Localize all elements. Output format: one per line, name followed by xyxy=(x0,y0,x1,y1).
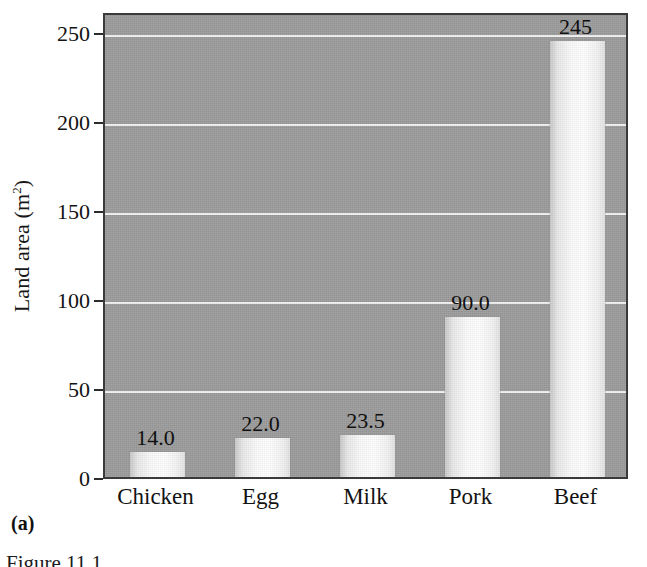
y-axis-title-text: Land area (m2) xyxy=(9,180,35,313)
plot-area xyxy=(103,13,628,479)
bar xyxy=(340,435,395,477)
gridline xyxy=(105,124,626,126)
y-axis-tick-label: 250 xyxy=(34,23,90,45)
y-axis-tick-label: 50 xyxy=(34,379,90,401)
bar xyxy=(235,438,290,477)
y-axis-tick-mark xyxy=(94,478,103,480)
gridline xyxy=(105,302,626,304)
gridline xyxy=(105,35,626,37)
y-axis-tick-label: 100 xyxy=(34,290,90,312)
bar xyxy=(445,317,500,477)
x-axis-tick-label: Beef xyxy=(554,484,597,509)
gridline xyxy=(105,391,626,393)
x-axis-tick-label: Chicken xyxy=(117,484,194,509)
bar xyxy=(550,41,605,477)
gridline xyxy=(105,213,626,215)
y-axis-tick-mark xyxy=(94,122,103,124)
y-axis-tick-label: 200 xyxy=(34,112,90,134)
y-axis-title-base: Land area (m xyxy=(9,194,34,312)
x-axis-tick-labels: ChickenEggMilkPorkBeef xyxy=(0,484,647,518)
y-axis-tick-labels: 050100150200250 xyxy=(34,0,90,567)
x-axis-tick-label: Milk xyxy=(343,484,388,509)
panel-letter: (a) xyxy=(11,512,34,535)
y-axis-title-superscript: 2 xyxy=(9,187,24,194)
x-axis-tick-label: Pork xyxy=(449,484,492,509)
y-axis-tick-mark xyxy=(94,300,103,302)
figure-container: Land area (m2) 050100150200250 14.022.02… xyxy=(0,0,647,567)
y-axis-tick-label: 150 xyxy=(34,201,90,223)
y-axis-tick-mark xyxy=(94,211,103,213)
bar xyxy=(130,452,185,477)
y-axis-tick-mark xyxy=(94,33,103,35)
figure-caption: Figure 11.1 xyxy=(6,551,102,567)
y-axis-tick-mark xyxy=(94,389,103,391)
scan-texture-overlay xyxy=(105,15,626,477)
x-axis-tick-label: Egg xyxy=(242,484,279,509)
y-axis-title-close-paren: ) xyxy=(9,180,34,187)
